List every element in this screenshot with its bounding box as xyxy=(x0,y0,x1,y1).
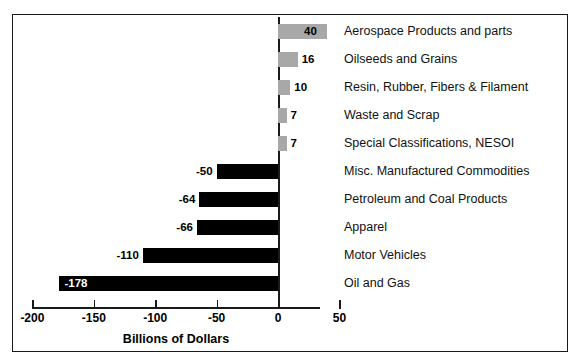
bar-row: -66Apparel xyxy=(13,213,569,241)
bar-value-label: -50 xyxy=(187,163,213,179)
bar-row: 10Resin, Rubber, Fibers & Filament xyxy=(13,73,569,101)
category-label: Special Classifications, NESOI xyxy=(344,134,514,152)
x-axis-tick-mark xyxy=(278,300,280,309)
bottom-caption xyxy=(14,356,274,364)
bar-row: -64Petroleum and Coal Products xyxy=(13,185,569,213)
x-axis-tick-label: 50 xyxy=(333,311,346,325)
x-axis-tick-label: -150 xyxy=(82,311,106,325)
bar-value-label: 7 xyxy=(291,107,297,123)
bar-value-label: -66 xyxy=(167,219,193,235)
x-axis-line xyxy=(32,307,320,309)
x-axis-tick-mark xyxy=(32,300,34,309)
category-label: Apparel xyxy=(344,218,387,236)
category-label: Oil and Gas xyxy=(344,274,410,292)
x-axis-tick-label: -200 xyxy=(20,311,44,325)
bar-row: 40Aerospace Products and parts xyxy=(13,17,569,45)
category-label: Motor Vehicles xyxy=(344,246,426,264)
x-axis-tick-mark xyxy=(155,300,157,309)
x-axis-title: Billions of Dollars xyxy=(32,332,320,346)
category-label: Misc. Manufactured Commodities xyxy=(344,162,529,180)
bar-row: 16Oilseeds and Grains xyxy=(13,45,569,73)
bar-row: -178Oil and Gas xyxy=(13,269,569,297)
bar-positive xyxy=(278,136,287,151)
x-axis-tick-mark xyxy=(217,300,219,309)
category-label: Waste and Scrap xyxy=(344,106,439,124)
bar-value-label: -110 xyxy=(113,247,139,263)
bar-value-label: 7 xyxy=(291,135,297,151)
bar-negative xyxy=(217,164,278,179)
bar-negative xyxy=(197,220,278,235)
category-label: Oilseeds and Grains xyxy=(344,50,457,68)
x-axis-tick-mark xyxy=(339,300,341,309)
x-axis-tick-label: -50 xyxy=(208,311,225,325)
bar-negative xyxy=(59,276,278,291)
chart-frame: 40Aerospace Products and parts16Oilseeds… xyxy=(12,14,568,352)
bar-negative xyxy=(199,192,278,207)
bar-value-label: -64 xyxy=(169,191,195,207)
bar-positive xyxy=(278,80,290,95)
x-axis: -200-150-100-50050 Billions of Dollars xyxy=(13,300,569,353)
bar-row: -110Motor Vehicles xyxy=(13,241,569,269)
category-label: Resin, Rubber, Fibers & Filament xyxy=(344,78,528,96)
x-axis-tick-mark xyxy=(94,300,96,309)
bar-row: 7Waste and Scrap xyxy=(13,101,569,129)
x-axis-tick-label: -100 xyxy=(143,311,167,325)
bar-positive xyxy=(278,108,287,123)
x-axis-tick-label: 0 xyxy=(275,311,282,325)
bar-value-label: 40 xyxy=(304,23,317,39)
bar-value-label: -178 xyxy=(64,275,87,291)
bar-value-label: 10 xyxy=(294,79,307,95)
category-label: Petroleum and Coal Products xyxy=(344,190,507,208)
bar-row: -50Misc. Manufactured Commodities xyxy=(13,157,569,185)
plot-area: 40Aerospace Products and parts16Oilseeds… xyxy=(13,15,569,300)
bar-value-label: 16 xyxy=(302,51,315,67)
bar-negative xyxy=(143,248,278,263)
bar-row: 7Special Classifications, NESOI xyxy=(13,129,569,157)
bar-positive xyxy=(278,24,327,39)
category-label: Aerospace Products and parts xyxy=(344,22,512,40)
bar-positive xyxy=(278,52,298,67)
